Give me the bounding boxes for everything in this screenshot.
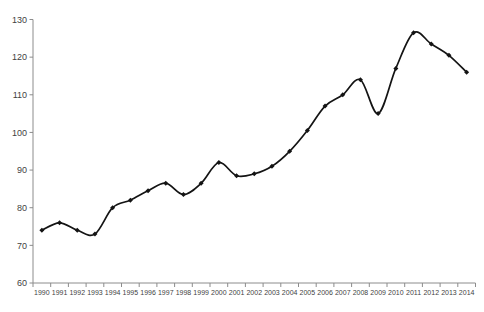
data-point-marker [163, 181, 168, 186]
data-point-marker [75, 228, 80, 233]
y-tick-label: 120 [12, 52, 27, 62]
y-tick-label: 80 [17, 203, 27, 213]
data-point-marker [181, 192, 186, 197]
x-tick-label: 1995 [123, 289, 139, 296]
x-tick-label: 2003 [264, 289, 280, 296]
y-tick-label: 60 [17, 278, 27, 288]
x-tick-label: 1992 [69, 289, 85, 296]
x-tick-label: 2014 [459, 289, 475, 296]
x-tick-label: 2011 [406, 289, 421, 296]
x-tick-label: 2002 [246, 289, 262, 296]
x-tick-label: 1993 [87, 289, 103, 296]
x-tick-label: 2005 [300, 289, 316, 296]
line-chart: 6070809010011012013019901991199219931994… [0, 0, 484, 312]
y-tick-label: 70 [17, 241, 27, 251]
y-tick-label: 100 [12, 128, 27, 138]
x-tick-label: 1994 [105, 289, 121, 296]
x-tick-label: 1997 [158, 289, 174, 296]
y-tick-label: 130 [12, 15, 27, 25]
y-tick-label: 110 [13, 90, 27, 100]
line-chart-figure: 6070809010011012013019901991199219931994… [0, 0, 484, 312]
x-tick-label: 2006 [317, 289, 333, 296]
x-tick-label: 2008 [353, 289, 369, 296]
x-tick-label: 2010 [388, 289, 404, 296]
x-tick-label: 2004 [282, 289, 298, 296]
data-line [42, 32, 467, 236]
x-tick-label: 2001 [229, 289, 245, 296]
x-tick-label: 1998 [176, 289, 192, 296]
x-tick-label: 1991 [52, 289, 68, 296]
x-tick-label: 1999 [193, 289, 209, 296]
x-tick-label: 1990 [34, 289, 50, 296]
x-tick-label: 2013 [441, 289, 457, 296]
data-point-marker [393, 66, 398, 71]
x-tick-label: 2000 [211, 289, 227, 296]
data-point-marker [57, 220, 62, 225]
x-tick-label: 2012 [423, 289, 439, 296]
x-tick-label: 2007 [335, 289, 351, 296]
x-tick-label: 2009 [370, 289, 386, 296]
data-point-marker [252, 171, 257, 176]
x-tick-label: 1996 [140, 289, 156, 296]
y-tick-label: 90 [17, 165, 27, 175]
